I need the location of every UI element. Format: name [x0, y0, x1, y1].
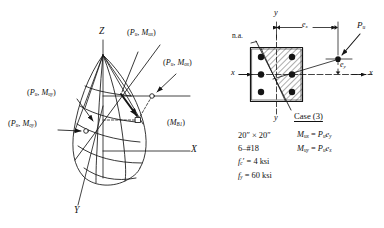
section-axis-label-bottom-y: y — [274, 114, 278, 122]
axis-label-x: X — [191, 145, 197, 155]
case-label: Case (3) — [294, 112, 323, 121]
label-pu-mux: (Pu, Mux) — [127, 29, 156, 37]
section-axis-label-left-x: x — [231, 69, 235, 77]
rebar-dot — [258, 71, 264, 77]
spec-fy: fy = 60 ksi — [238, 172, 272, 180]
cross-section-group — [239, 22, 372, 114]
load-label-pu: Pu — [357, 21, 365, 31]
label-pu-moy: (Pu, Moy) — [8, 120, 37, 128]
sym-p-sub: u — [135, 31, 138, 37]
label-mb1: (MB1) — [167, 119, 185, 127]
point-pu-mox — [150, 94, 155, 99]
equation-muy: Muy = Puex — [297, 145, 332, 153]
rebar-dot — [258, 54, 264, 60]
axis-label-y: Y — [74, 206, 79, 216]
figure-vector-art — [0, 0, 384, 228]
sym-m-sub: ux — [148, 31, 153, 37]
spec-bars: 6–#18 — [238, 145, 259, 153]
ey-dimension — [326, 59, 352, 75]
neutral-axis-label: n.a. — [232, 32, 243, 40]
pu-arrow — [342, 34, 360, 55]
section-axis-label-top-y: y — [274, 9, 278, 17]
point-pu-interior — [136, 118, 141, 123]
section-axis-label-right-x: x — [369, 69, 373, 77]
label-pu-mox: (Pu, Mox) — [163, 59, 192, 67]
spec-size: 20″ × 20″ — [238, 132, 271, 140]
rebar-dot — [289, 54, 295, 60]
projection-lines — [103, 96, 152, 120]
rebar-dot — [289, 89, 295, 95]
label-pu-muy: (Pu, Muy) — [27, 89, 56, 97]
dimension-label-ey: ey — [340, 61, 346, 70]
load-line — [75, 45, 160, 160]
figure-canvas: Z X Y (Pu, Mux) (Pu, Mox) (Pu, Muy) (Pu,… — [0, 0, 384, 228]
point-pu-moy — [84, 129, 89, 134]
spec-fc: fc′ = 4 ksi — [238, 158, 269, 166]
dimension-label-ex: ex — [302, 21, 308, 30]
equation-mux: Mux = Puey — [297, 131, 332, 139]
rebar-dot — [258, 89, 264, 95]
axis-label-z: Z — [99, 27, 104, 37]
